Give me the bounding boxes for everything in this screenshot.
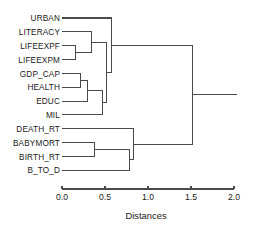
leaf-label-b_to_d: B_TO_D	[27, 166, 60, 175]
leaf-label-urban: URBAN	[31, 14, 60, 23]
x-axis-tick-label-1: 0.5	[99, 192, 111, 202]
x-axis-tick-label-2: 1.0	[142, 192, 154, 202]
leaf-label-educ: EDUC	[36, 97, 60, 106]
dendrogram-links-group	[62, 18, 237, 170]
leaf-label-lifeexpf: LIFEEXPF	[20, 42, 60, 51]
dendrogram-link-m5	[62, 143, 95, 157]
dendrogram-link-m9	[62, 150, 130, 171]
x-axis-title: Distances	[125, 210, 166, 221]
leaf-labels-group: URBANLITERACYLIFEEXPFLIFEEXPMGDP_CAPHEAL…	[13, 14, 60, 175]
dendrogram-link-m7	[91, 42, 106, 103]
leaf-label-mil: MIL	[46, 111, 60, 120]
leaf-label-literacy: LITERACY	[19, 28, 61, 37]
dendrogram-plot: URBANLITERACYLIFEEXPFLIFEEXPMGDP_CAPHEAL…	[0, 0, 253, 229]
leaf-label-babymort: BABYMORT	[13, 139, 60, 148]
dendrogram-link-m1	[62, 46, 76, 60]
dendrogram-link-m2	[62, 73, 80, 87]
dendrogram-link-m6	[62, 91, 102, 115]
leaf-label-birth_rt: BIRTH_RT	[19, 153, 60, 162]
x-axis-group: 0.00.51.01.52.0	[56, 186, 240, 203]
x-axis-tick-label-0: 0.0	[56, 192, 68, 202]
x-axis-tick-label-3: 1.5	[185, 192, 197, 202]
leaf-label-death_rt: DEATH_RT	[16, 125, 60, 134]
dendrogram-figure: URBANLITERACYLIFEEXPFLIFEEXPMGDP_CAPHEAL…	[0, 0, 253, 229]
dendrogram-link-m4	[62, 32, 91, 53]
leaf-label-gdp_cap: GDP_CAP	[20, 70, 61, 79]
x-axis-tick-label-4: 2.0	[228, 192, 240, 202]
leaf-label-health: HEALTH	[27, 83, 60, 92]
dendrogram-link-m11	[112, 45, 193, 144]
leaf-label-lifeexpm: LIFEEXPM	[18, 56, 60, 65]
dendrogram-link-m10	[62, 129, 133, 160]
dendrogram-link-m3	[62, 80, 88, 101]
